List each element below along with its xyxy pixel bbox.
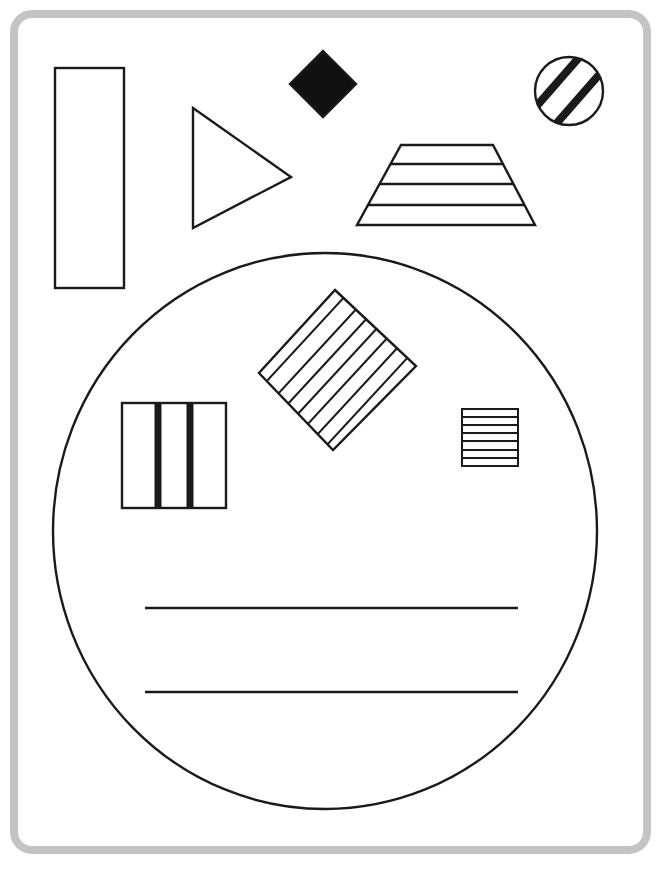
striped-circle bbox=[520, 45, 612, 140]
horizontal-striped-square bbox=[462, 409, 518, 466]
tall-rectangle bbox=[55, 68, 124, 288]
vertical-striped-square bbox=[122, 403, 226, 508]
filled-diamond bbox=[290, 51, 356, 117]
rotated-striped-square bbox=[240, 280, 432, 482]
shapes-canvas bbox=[0, 0, 669, 872]
striped-trapezoid bbox=[340, 145, 560, 225]
large-circle bbox=[53, 253, 597, 809]
triangle bbox=[193, 108, 291, 228]
